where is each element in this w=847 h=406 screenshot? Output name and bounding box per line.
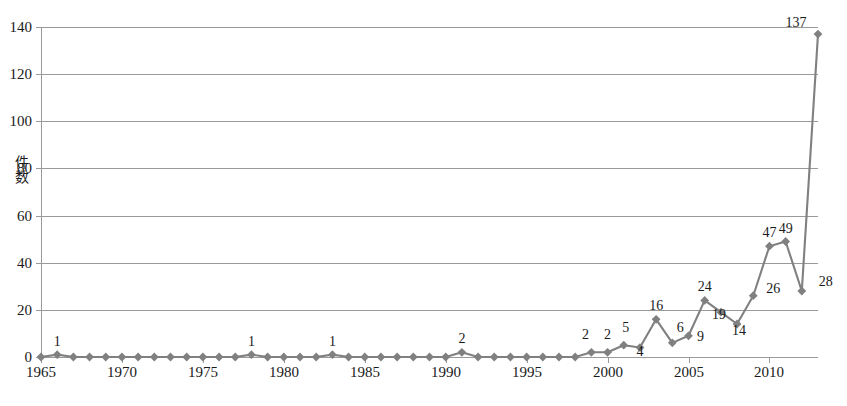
point-value-label: 4	[636, 345, 643, 359]
y-tick-label: 120	[0, 67, 32, 82]
gridline	[41, 121, 818, 122]
y-tick-label: 20	[0, 303, 32, 318]
data-point-marker	[797, 287, 806, 296]
data-point-marker	[765, 242, 774, 251]
chart-title	[0, 0, 847, 6]
point-value-label: 26	[766, 282, 780, 296]
point-value-label: 2	[582, 328, 589, 342]
point-value-label: 16	[649, 299, 663, 313]
x-tick-label: 1995	[497, 364, 557, 381]
point-value-label: 2	[604, 328, 611, 342]
x-tick-mark	[689, 358, 690, 363]
x-tick-mark	[41, 358, 42, 363]
point-value-label: 14	[732, 324, 746, 338]
x-tick-label: 1970	[92, 364, 152, 381]
gridline	[41, 310, 818, 311]
point-value-label: 24	[698, 280, 712, 294]
y-tick-label: 140	[0, 20, 32, 35]
data-point-marker	[814, 30, 823, 39]
gridline	[41, 263, 818, 264]
data-point-marker	[619, 341, 628, 350]
point-value-label: 1	[54, 335, 61, 349]
data-point-marker	[668, 338, 677, 347]
gridline	[41, 27, 818, 28]
point-value-label: 28	[819, 275, 833, 289]
y-tick-mark	[36, 310, 41, 311]
y-tick-mark	[36, 27, 41, 28]
x-tick-label: 2000	[578, 364, 638, 381]
data-point-marker	[652, 315, 661, 324]
data-point-marker	[684, 331, 693, 340]
x-tick-mark	[608, 358, 609, 363]
x-tick-label: 2010	[739, 364, 799, 381]
y-tick-mark	[36, 74, 41, 75]
x-tick-mark	[527, 358, 528, 363]
x-tick-mark	[446, 358, 447, 363]
gridline	[41, 216, 818, 217]
y-tick-label: 40	[0, 256, 32, 271]
point-value-label: 137	[786, 16, 807, 30]
x-tick-label: 1980	[254, 364, 314, 381]
gridline	[41, 74, 818, 75]
y-tick-mark	[36, 216, 41, 217]
point-value-label: 47	[762, 226, 776, 240]
point-value-label: 1	[248, 335, 255, 349]
x-tick-mark	[365, 358, 366, 363]
point-value-label: 2	[458, 332, 465, 346]
y-tick-mark	[36, 168, 41, 169]
point-value-label: 1	[329, 335, 336, 349]
x-tick-mark	[122, 358, 123, 363]
x-tick-label: 2005	[659, 364, 719, 381]
y-tick-label: 100	[0, 114, 32, 129]
y-tick-mark	[36, 121, 41, 122]
x-tick-label: 1985	[335, 364, 395, 381]
gridline	[41, 357, 818, 358]
y-axis-line	[41, 27, 42, 358]
point-value-label: 49	[779, 222, 793, 236]
x-tick-mark	[769, 358, 770, 363]
gridline	[41, 168, 818, 169]
y-tick-label: 60	[0, 209, 32, 224]
x-tick-label: 1965	[11, 364, 71, 381]
x-tick-label: 1990	[416, 364, 476, 381]
x-tick-mark	[203, 358, 204, 363]
data-point-marker	[603, 348, 612, 357]
y-tick-label: 80	[0, 161, 32, 176]
point-value-label: 19	[712, 308, 726, 322]
series-line	[0, 0, 847, 406]
point-value-label: 6	[677, 321, 684, 335]
data-point-marker	[749, 291, 758, 300]
point-value-label: 5	[622, 321, 629, 335]
point-value-label: 9	[697, 330, 704, 344]
y-tick-mark	[36, 263, 41, 264]
y-tick-label: 0	[0, 350, 32, 365]
data-point-marker	[587, 348, 596, 357]
line-chart: 件数 020406080100120140 196519701975198019…	[0, 0, 847, 406]
data-point-marker	[700, 296, 709, 305]
x-tick-label: 1975	[173, 364, 233, 381]
x-tick-mark	[284, 358, 285, 363]
data-point-marker	[781, 237, 790, 246]
data-point-marker	[457, 348, 466, 357]
series-polyline	[41, 34, 818, 357]
